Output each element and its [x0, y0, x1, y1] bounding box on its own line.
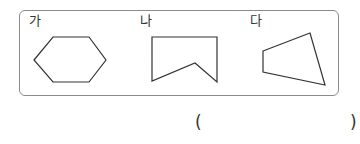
answer-close-paren: )	[350, 112, 357, 132]
answer-blank[interactable]	[210, 112, 345, 134]
hexagon-figure	[34, 37, 106, 82]
concave-pentagon-figure	[152, 37, 217, 82]
answer-open-paren: (	[195, 112, 202, 132]
quadrilateral-figure	[263, 33, 325, 85]
